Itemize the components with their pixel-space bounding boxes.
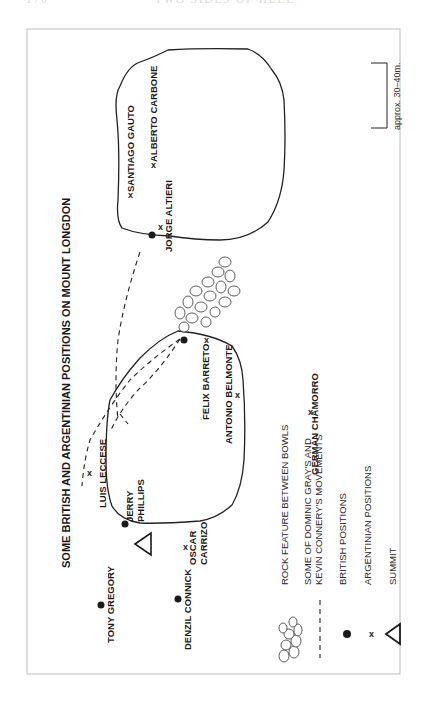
- label-jerry-phillips-line2: PHILLIPS: [135, 479, 146, 522]
- x-mark-icon: x: [204, 335, 209, 345]
- upper-bowl-outline: [116, 49, 285, 240]
- legend-label-british: BRITISH POSITIONS: [337, 493, 348, 585]
- legend-x-icon: x: [369, 629, 374, 639]
- british-position-dot: [181, 337, 188, 344]
- map-title: SOME BRITISH AND ARGENTINIAN POSITIONS O…: [60, 198, 72, 568]
- label-santiago-gauto: SANTIAGO GAUTO: [125, 105, 136, 192]
- legend-label-rock: ROCK FEATURE BETWEEN BOWLS: [279, 425, 290, 585]
- legend-label-movements-line2: KEVIN CONNERY'S MOVEMENTS: [313, 435, 324, 586]
- x-mark-icon: x: [87, 468, 92, 478]
- legend: x ROCK FEATURE BETWEEN BOWLS SOME OF DOM…: [279, 425, 400, 662]
- label-tony-gregory: TONY GREGORY: [105, 565, 116, 643]
- british-position-dot: [149, 232, 156, 239]
- british-position-dot: [175, 596, 182, 603]
- legend-label-argentinian: ARGENTINIAN POSITIONS: [362, 466, 373, 585]
- rock-feature: [175, 257, 240, 332]
- legend-rock-icon: [279, 617, 302, 662]
- label-oscar-carrizo-line1: OSCAR: [187, 531, 198, 565]
- legend-dot-icon: [343, 630, 351, 638]
- x-mark-icon: x: [235, 390, 240, 400]
- label-jorge-altieri: JORGE ALTIERI: [163, 180, 174, 252]
- legend-label-movements-line1: SOME OF DOMINIC GRAY'S AND: [302, 438, 313, 585]
- legend-label-summit: SUMMIT: [387, 547, 398, 585]
- label-denzil-connick: DENZIL CONNICK: [182, 569, 193, 650]
- label-felix-barreto: FELIX BARRETO: [200, 344, 211, 420]
- label-luis-leccese: LUIS LECCESE: [97, 439, 108, 508]
- british-position-dot: [98, 602, 105, 609]
- legend-triangle-icon: [386, 624, 400, 644]
- mount-longdon-map: SOME BRITISH AND ARGENTINIAN POSITIONS O…: [0, 0, 444, 707]
- label-jerry-phillips-line1: JERRY: [124, 490, 135, 522]
- label-oscar-carrizo-line2: CARRIZO: [198, 522, 209, 565]
- label-alberto-carbone: ALBERTO CARBONE: [148, 66, 159, 162]
- scale-bar: approx. 30–40m.: [371, 62, 402, 130]
- summit-triangle-icon: [135, 533, 151, 555]
- scale-label: approx. 30–40m.: [392, 62, 402, 130]
- label-antonio-belmonte: ANTONIO BELMONTE: [223, 344, 234, 444]
